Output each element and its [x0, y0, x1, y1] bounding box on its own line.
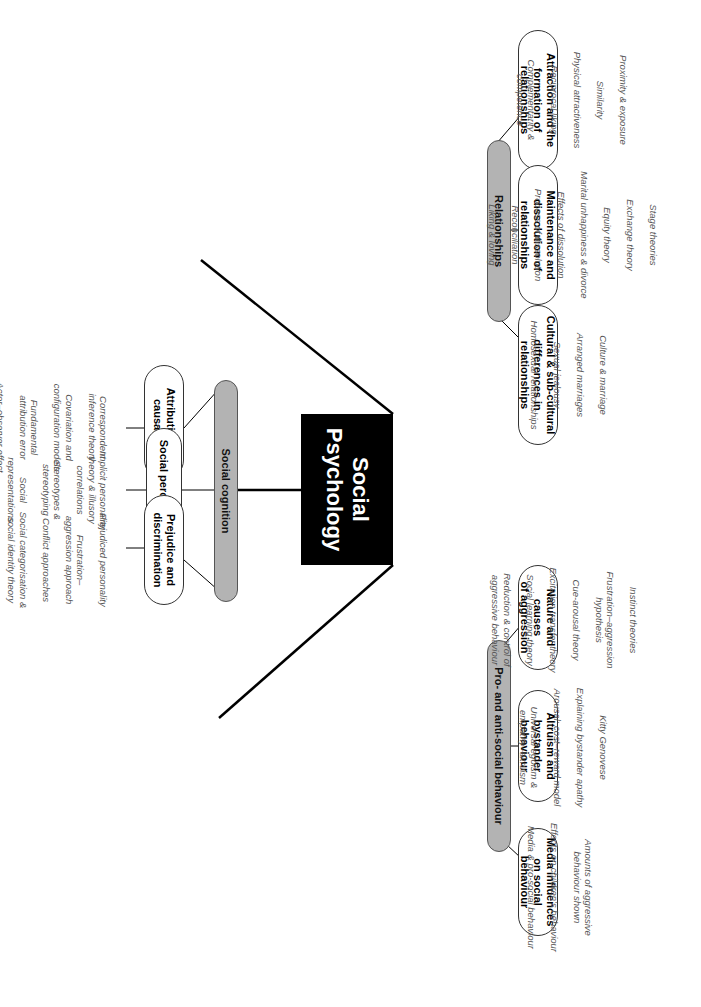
- item: Prejudiced personality: [98, 490, 110, 630]
- item: Complementarity & competence: [515, 30, 538, 170]
- item: Media & pro-social behaviour: [526, 820, 538, 955]
- item: Cue-arousal theory: [571, 555, 583, 685]
- items-maintenance: Stage theories Exchange theory Equity th…: [476, 160, 672, 310]
- item: Liking & loving: [487, 160, 499, 310]
- item: Effects on children's behaviour: [549, 820, 561, 955]
- items-aggression: Instinct theories Frustration–aggression…: [479, 555, 652, 685]
- item: Reduction & control of aggressive behavi…: [490, 555, 513, 685]
- item: Frustration– aggression approach: [64, 490, 87, 630]
- item: Social categorisation & social identity …: [6, 490, 29, 630]
- item: Homosexual relationships: [529, 305, 541, 445]
- items-attraction: Proximity & exposure Similarity Physical…: [503, 30, 641, 170]
- item: Excitation transfer theory: [548, 555, 560, 685]
- item: Similarity: [595, 30, 607, 170]
- items-cultural: Culture & marriage Arranged marriages Se…: [518, 305, 622, 445]
- item: Stage theories: [648, 160, 660, 310]
- item: Equity theory: [602, 160, 614, 310]
- item: Instinct theories: [628, 555, 640, 685]
- item: Conflict approaches: [41, 490, 53, 630]
- mind-map: Social Psychology Social cognition Attri…: [0, 0, 701, 1007]
- branch-social-cognition[interactable]: Social cognition: [214, 380, 238, 602]
- item: Reconciliation: [510, 160, 522, 310]
- item: Reciprocal liking: [549, 30, 561, 170]
- item: Physical attractiveness: [572, 30, 584, 170]
- items-altruism: Kitty Genovese Explaining bystander apat…: [506, 680, 621, 815]
- central-topic: Social Psychology: [301, 414, 393, 565]
- item: Explaining bystander apathy: [575, 680, 587, 815]
- item: Social learning theory: [525, 555, 537, 685]
- item: Frustration–aggression hypothesis: [594, 555, 617, 685]
- items-prejudice: Prejudiced personality Frustration– aggr…: [0, 490, 121, 630]
- item: Amounts of aggressive behaviour shown: [572, 820, 595, 955]
- item: Arranged marriages: [575, 305, 587, 445]
- item: Effects of dissolution: [556, 160, 568, 310]
- item: Process of dissolution: [533, 160, 545, 310]
- item: Exchange theory: [625, 160, 637, 310]
- topic-prejudice-and-discrimination[interactable]: Prejudice and discrimination: [144, 495, 184, 605]
- item: Kitty Genovese: [598, 680, 610, 815]
- item: Proximity & exposure: [618, 30, 630, 170]
- item: Arousal: cost–reward model: [552, 680, 564, 815]
- item: Marital unhappiness & divorce: [579, 160, 591, 310]
- item: Universal egoism & empathy–altruism: [518, 680, 541, 815]
- item: Culture & marriage: [598, 305, 610, 445]
- item: Sexual jealousy: [552, 305, 564, 445]
- items-media: Amounts of aggressive behaviour shown Ef…: [514, 820, 606, 955]
